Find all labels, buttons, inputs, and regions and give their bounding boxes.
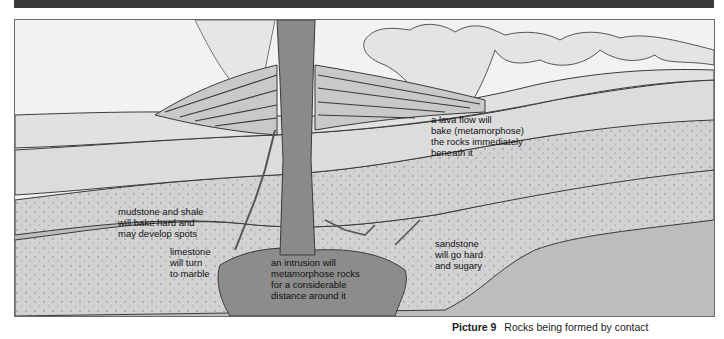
caption-text: Rocks being formed by contact [504,321,648,333]
figure-caption: Picture 9Rocks being formed by contact [452,321,649,333]
contact-metamorphism-illustration: a lava flow will bake (metamorphose) the… [14,19,715,317]
label-limestone: limestone will turn to marble [170,246,211,279]
label-mudstone-shale: mudstone and shale will bake hard and ma… [118,206,204,239]
label-lava-flow: a lava flow will bake (metamorphose) the… [431,114,524,158]
caption-number: Picture 9 [452,321,496,333]
label-intrusion: an intrusion will metamorphose rocks for… [271,257,360,301]
label-sandstone: sandstone will go hard and sugary [435,238,483,271]
page-top-rule [14,0,714,8]
geology-cross-section [15,20,714,316]
volcanic-vent [277,20,315,255]
